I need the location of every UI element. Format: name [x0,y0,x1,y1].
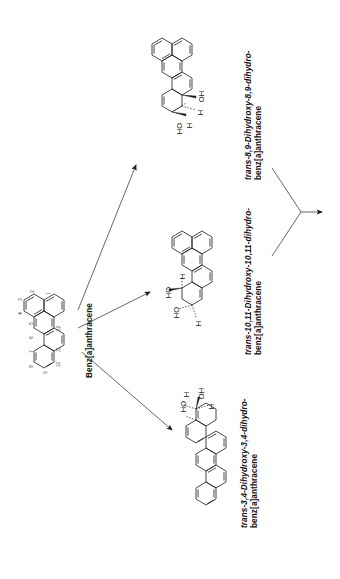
product-3-4-diol-name-line2: benz[a]anthracene [250,378,260,528]
arrow-to-3-4-diol [82,352,172,430]
ring-position-4: 4 [18,312,23,315]
product-3-4-diol-structure [186,403,226,505]
product-8-9-diol-label: trans-8,9-Dihydroxy-8,9-dihydro- benz[a]… [244,30,264,180]
product-8-9-diol-name-line2: benz[a]anthracene [254,30,264,180]
arrow-convergent-outlet [272,168,322,256]
product-10-11-diol-label: trans-10,11-Dihydroxy-10,11-dihydro- ben… [244,205,264,355]
h-label-10-11-b: H [194,321,203,326]
arrow-to-8-9-diol [78,165,136,310]
oh-label-3-4-b: OH [197,388,206,399]
ho-label-8-9-b: HO [175,123,184,134]
oh-label-8-9-a: OH [197,91,206,102]
reactant-name: Benz[a]anthracene [85,303,94,378]
ring-position-9: 9 [43,371,48,374]
h-label-10-11-a: H [178,274,187,279]
ring-position-1: 1 [46,292,51,295]
product-8-9-diol-stereo-bonds [172,95,196,116]
h-label-3-4-b: H [207,404,216,409]
ho-label-10-11-a: HO [164,287,173,298]
h-label-3-4-a: H [182,392,191,397]
h-label-8-9-a: H [196,110,205,115]
product-8-9-diol-structure [152,38,192,112]
ring-position-3: 3 [18,298,23,301]
ring-position-11: 11 [56,347,61,352]
ring-position-10: 10 [56,362,61,367]
product-3-4-diol-name-line1: trans-3,4-Dihydroxy-3,4-dihydro- [240,378,250,528]
branching-arrows [78,165,172,430]
ring-position-6: 6 [29,336,34,339]
ring-position-12: 12 [56,326,61,331]
ring-position-8: 8 [29,365,34,368]
product-8-9-diol-name-line1: trans-8,9-Dihydroxy-8,9-dihydro- [244,30,254,180]
ring-position-7: 7 [29,350,34,353]
product-10-11-diol-name-line1: trans-10,11-Dihydroxy-10,11-dihydro- [244,205,254,355]
ho-label-3-4-a: HO [179,401,188,412]
benz-a-anthracene-label: Benz[a]anthracene [85,303,95,378]
h-label-8-9-b: H [185,123,194,128]
product-10-11-diol-name-line2: benz[a]anthracene [254,205,264,355]
ring-position-2: 2 [30,290,35,293]
ho-label-10-11-b: HO [172,307,181,318]
ring-position-5: 5 [29,322,34,325]
product-3-4-diol-label: trans-3,4-Dihydroxy-3,4-dihydro- benz[a]… [240,378,260,528]
product-10-11-diol-structure [172,231,212,305]
